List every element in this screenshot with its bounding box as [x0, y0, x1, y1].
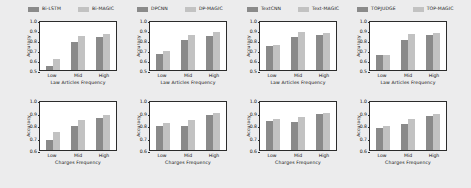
bar[interactable]: [401, 40, 408, 70]
bar[interactable]: [316, 114, 323, 150]
x-axis-label: Law Articles Frequency: [39, 80, 117, 85]
x-tick-label: Low: [261, 153, 283, 158]
bar[interactable]: [426, 116, 433, 150]
legend-entry-baseline[interactable]: DPCNN: [137, 6, 168, 12]
y-tick-label: 1.0: [250, 99, 257, 104]
bar[interactable]: [53, 59, 60, 70]
y-tick-label: 0.8: [250, 39, 257, 44]
bar[interactable]: [71, 42, 78, 70]
bar-group-high: [316, 102, 330, 150]
legend-label-magic: TOP-MAGIC: [427, 6, 454, 12]
bar-group-high: [206, 102, 220, 150]
bar-group-mid: [401, 22, 415, 70]
legend-swatch-icon: [247, 7, 258, 12]
bar[interactable]: [163, 123, 170, 151]
bar[interactable]: [213, 113, 220, 150]
bar-group-mid: [181, 102, 195, 150]
y-tick-label: 0.6: [250, 59, 257, 64]
bar-group-mid: [71, 22, 85, 70]
bar[interactable]: [188, 35, 195, 70]
bar[interactable]: [401, 124, 408, 150]
y-tick-label: 0.8: [360, 39, 367, 44]
x-tick-label: Low: [261, 73, 283, 78]
bar[interactable]: [316, 35, 323, 71]
bar[interactable]: [376, 128, 383, 150]
y-tick-label: 0.9: [30, 111, 37, 116]
axes-frame: [149, 21, 227, 71]
legend-entry-magic[interactable]: Bi-MAGIC: [78, 6, 114, 12]
y-tick-label: 0.8: [360, 124, 367, 129]
bar[interactable]: [291, 122, 298, 150]
bar[interactable]: [383, 55, 390, 71]
bar[interactable]: [103, 115, 110, 150]
bar[interactable]: [163, 51, 170, 70]
legend-entry-magic[interactable]: Text-MAGIC: [298, 6, 339, 12]
bar[interactable]: [206, 36, 213, 70]
legend-label-baseline: Bi-LSTM: [42, 6, 61, 12]
legend-entry-magic[interactable]: DP-MAGIC: [185, 6, 223, 12]
x-axis-label: Charges Frequency: [39, 160, 117, 165]
x-axis-label: Charges Frequency: [149, 160, 227, 165]
y-tick-labels: 0.60.70.80.91.0: [350, 99, 368, 171]
bar[interactable]: [426, 35, 433, 70]
bar[interactable]: [46, 140, 53, 150]
bar[interactable]: [181, 126, 188, 150]
y-tick-label: 1.0: [140, 99, 147, 104]
bar[interactable]: [298, 32, 305, 70]
bar-group-low: [376, 22, 390, 70]
bar[interactable]: [96, 37, 103, 70]
legend-entry-baseline[interactable]: TextCNN: [247, 6, 281, 12]
bar[interactable]: [298, 117, 305, 150]
legend-entry-baseline[interactable]: Bi-LSTM: [28, 6, 61, 12]
legend-row: Bi-LSTMBi-MAGICDPCNNDP-MAGICTextCNNText-…: [0, 0, 471, 18]
bar[interactable]: [181, 40, 188, 70]
bar[interactable]: [156, 54, 163, 70]
y-tick-labels: 0.60.70.80.91.0: [240, 99, 258, 171]
chart-panel-6: Accuracy0.60.70.80.91.0LowMidHighCharges…: [128, 99, 233, 171]
x-tick-label: Mid: [397, 153, 419, 158]
bar-group-low: [46, 102, 60, 150]
y-tick-label: 1.0: [360, 19, 367, 24]
bar-group-mid: [71, 102, 85, 150]
bar[interactable]: [96, 118, 103, 151]
bar[interactable]: [103, 34, 110, 70]
legend-entry-magic[interactable]: TOP-MAGIC: [413, 6, 454, 12]
bar-group-mid: [181, 22, 195, 70]
legend-label-magic: Bi-MAGIC: [92, 6, 114, 12]
y-tick-label: 0.5: [250, 69, 257, 74]
legend-swatch-icon: [185, 7, 196, 12]
axes-frame: [39, 101, 117, 151]
bar[interactable]: [291, 37, 298, 70]
bar[interactable]: [213, 32, 220, 70]
bar[interactable]: [266, 121, 273, 150]
bar[interactable]: [156, 126, 163, 150]
x-tick-labels: LowMidHigh: [39, 73, 117, 78]
legend-label-baseline: TextCNN: [261, 6, 281, 12]
y-tick-label: 0.7: [250, 49, 257, 54]
bar[interactable]: [188, 120, 195, 150]
bar[interactable]: [383, 126, 390, 150]
bar[interactable]: [408, 34, 415, 70]
bar[interactable]: [433, 33, 440, 70]
bar-group-container: [370, 22, 446, 70]
axes-frame: [259, 21, 337, 71]
bar[interactable]: [71, 126, 78, 150]
bar[interactable]: [323, 113, 330, 150]
bar[interactable]: [78, 120, 85, 150]
bar[interactable]: [323, 33, 330, 71]
bar[interactable]: [273, 119, 280, 150]
bar[interactable]: [53, 132, 60, 150]
bar-group-container: [40, 22, 116, 70]
y-tick-label: 0.7: [140, 136, 147, 141]
bar[interactable]: [46, 66, 53, 70]
x-tick-label: High: [93, 153, 115, 158]
bar[interactable]: [273, 45, 280, 70]
bar[interactable]: [433, 114, 440, 150]
legend-entry-baseline[interactable]: TOPJUDGE: [357, 6, 396, 12]
bar[interactable]: [266, 46, 273, 70]
bar-group-high: [206, 22, 220, 70]
bar[interactable]: [78, 36, 85, 70]
bar[interactable]: [206, 115, 213, 150]
bar[interactable]: [408, 119, 415, 150]
bar[interactable]: [376, 55, 383, 70]
